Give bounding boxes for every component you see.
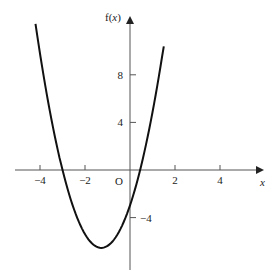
x-tick-label: −2 (79, 174, 91, 186)
x-tick-label: −4 (34, 174, 46, 186)
y-ticks: 84−4 (118, 69, 153, 224)
origin-label: O (115, 175, 123, 187)
x-axis-label: x (259, 176, 265, 188)
y-axis-label: f(x) (105, 11, 121, 24)
y-tick-label: 8 (118, 69, 124, 81)
x-tick-label: 4 (217, 174, 223, 186)
y-tick-label: 4 (118, 116, 124, 128)
x-tick-label: 2 (172, 174, 178, 186)
chart: −4−224 84−4 f(x) x O (0, 0, 279, 280)
y-tick-label: −4 (140, 212, 152, 224)
axes (15, 18, 262, 270)
